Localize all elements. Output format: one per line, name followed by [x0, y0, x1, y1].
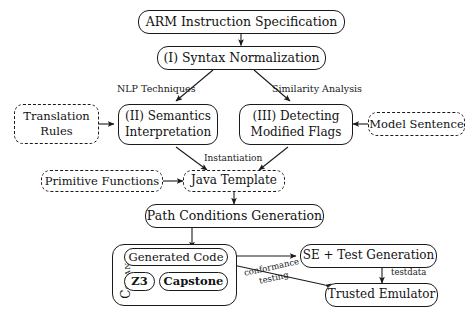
node-label-line1: Translation	[23, 109, 90, 124]
node-label: Capstone	[164, 274, 224, 289]
node-translation-rules[interactable]: Translation Rules	[14, 104, 99, 144]
node-label: SE + Test Generation	[303, 248, 435, 263]
node-label-line1: (III) Detecting	[253, 109, 340, 124]
node-trusted-emulator[interactable]: Trusted Emulator	[325, 283, 438, 307]
node-primitive-functions[interactable]: Primitive Functions	[41, 170, 163, 192]
node-label-line2: Rules	[40, 124, 72, 139]
edge-detecting-to-template	[259, 147, 288, 170]
node-label: Model Sentence	[369, 117, 463, 132]
node-label: Trusted Emulator	[328, 287, 436, 302]
node-z3[interactable]: Z3	[124, 272, 155, 291]
node-se-test-generation[interactable]: SE + Test Generation	[300, 244, 437, 268]
edge-label-similarity-analysis: Similarity Analysis	[272, 83, 362, 94]
node-model-sentence[interactable]: Model Sentence	[368, 112, 465, 136]
edge-label-testdata: testdata	[391, 267, 426, 277]
node-label-line2: Modified Flags	[251, 125, 342, 140]
node-syntax-normalization[interactable]: (I) Syntax Normalization	[157, 46, 326, 70]
node-label-line1: (II) Semantics	[125, 109, 211, 124]
node-label: (I) Syntax Normalization	[163, 50, 319, 66]
node-label-line2: Interpretation	[125, 125, 211, 140]
node-arm-instruction-specification[interactable]: ARM Instruction Specification	[138, 10, 345, 34]
edge-semantics-to-template	[176, 147, 207, 170]
edge-label-instantiation: Instantiation	[204, 153, 262, 163]
edge-label-nlp-techniques: NLP Techniques	[117, 83, 196, 94]
node-label: Primitive Functions	[45, 174, 160, 189]
node-label: ARM Instruction Specification	[146, 14, 338, 30]
node-semantics-interpretation[interactable]: (II) Semantics Interpretation	[118, 104, 218, 145]
node-label: Z3	[131, 274, 147, 289]
node-label: Java Template	[191, 173, 277, 188]
node-label: Generated Code	[129, 250, 224, 265]
edge-label-conformance-testing: conformance testing	[243, 256, 303, 290]
node-detecting-modified-flags[interactable]: (III) Detecting Modified Flags	[239, 104, 353, 145]
diagram-canvas: ARM Instruction Specification (I) Syntax…	[0, 0, 474, 319]
node-label: Path Conditions Generation	[147, 208, 322, 224]
node-capstone[interactable]: Capstone	[159, 272, 228, 291]
node-path-conditions-generation[interactable]: Path Conditions Generation	[145, 204, 324, 228]
node-generated-code[interactable]: Generated Code	[124, 248, 228, 266]
node-java-template[interactable]: Java Template	[183, 170, 285, 192]
